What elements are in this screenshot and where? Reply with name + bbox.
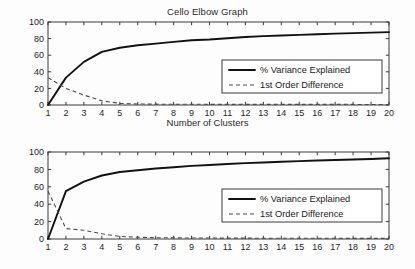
- chart-panel-cello: Cello Elbow Graph 1234567891011121314151…: [0, 0, 415, 134]
- x-tick-label-violin: 6: [135, 242, 140, 252]
- legend-label-variance-cello: % Variance Explained: [260, 65, 350, 75]
- y-tick-label-violin: 60: [34, 182, 44, 192]
- y-tick-label-violin: 0: [39, 234, 44, 244]
- y-tick-label-violin: 40: [34, 199, 44, 209]
- legend-label-difference-violin: 1st Order Difference: [260, 209, 344, 219]
- x-tick-label-violin: 7: [153, 242, 158, 252]
- x-tick-label-violin: 5: [117, 242, 122, 252]
- y-tick-label-violin: 100: [29, 147, 44, 157]
- figure-canvas: Cello Elbow Graph 1234567891011121314151…: [0, 0, 415, 269]
- x-tick-label-violin: 13: [258, 242, 268, 252]
- y-tick-label-cello: 40: [34, 67, 44, 77]
- x-tick-label-violin: 10: [205, 242, 215, 252]
- x-tick-label-violin: 12: [240, 242, 250, 252]
- y-tick-label-cello: 0: [39, 100, 44, 110]
- plot-area-violin: 1234567891011121314151617181920020406080…: [0, 131, 415, 269]
- x-tick-label-violin: 20: [384, 242, 394, 252]
- y-tick-label-violin: 20: [34, 217, 44, 227]
- y-tick-label-violin: 80: [34, 165, 44, 175]
- x-tick-label-violin: 17: [330, 242, 340, 252]
- x-tick-label-violin: 9: [189, 242, 194, 252]
- legend-label-difference-cello: 1st Order Difference: [260, 80, 344, 90]
- legend-label-variance-violin: % Variance Explained: [260, 194, 350, 204]
- x-tick-label-violin: 15: [294, 242, 304, 252]
- x-tick-label-violin: 1: [45, 242, 50, 252]
- y-tick-label-cello: 80: [34, 34, 44, 44]
- plot-area-cello: 1234567891011121314151617181920020406080…: [0, 0, 415, 134]
- y-tick-label-cello: 20: [34, 84, 44, 94]
- x-tick-label-violin: 16: [312, 242, 322, 252]
- y-tick-label-cello: 60: [34, 50, 44, 60]
- x-tick-label-violin: 8: [171, 242, 176, 252]
- x-tick-label-violin: 4: [99, 242, 104, 252]
- x-tick-label-violin: 14: [276, 242, 286, 252]
- x-axis-label-cello: Number of Clusters: [0, 117, 415, 128]
- x-tick-label-violin: 18: [348, 242, 358, 252]
- x-tick-label-violin: 11: [223, 242, 232, 252]
- x-tick-label-violin: 3: [81, 242, 86, 252]
- y-tick-label-cello: 100: [29, 17, 44, 27]
- chart-panel-violin: Violin Elbow Graph 123456789101112131415…: [0, 131, 415, 269]
- x-tick-label-violin: 19: [366, 242, 376, 252]
- x-tick-label-violin: 2: [63, 242, 68, 252]
